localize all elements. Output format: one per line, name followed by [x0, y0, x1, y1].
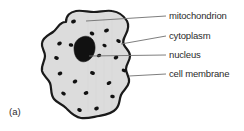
- leader-line-cytoplasm: [121, 36, 166, 44]
- label-mitochondrion: mitochondrion: [169, 11, 227, 21]
- cell-membrane-outline: [42, 11, 130, 119]
- leader-line-cell_membrane: [129, 74, 166, 76]
- label-cell-membrane: cell membrane: [169, 69, 229, 79]
- panel-letter: (a): [9, 106, 21, 117]
- figure-panel-animal-cell: mitochondrion cytoplasm nucleus cell mem…: [0, 0, 244, 131]
- label-nucleus: nucleus: [169, 50, 201, 60]
- label-cytoplasm: cytoplasm: [169, 31, 210, 41]
